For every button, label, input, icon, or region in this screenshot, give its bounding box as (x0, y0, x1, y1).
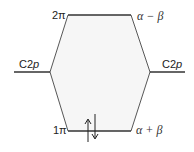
label-alpha-minus-beta: α − β (137, 9, 163, 23)
label-2pi: 2π (52, 9, 66, 21)
mo-diagram: 2π α − β C2p C2p 1π α + β (0, 0, 194, 152)
label-c2p-right: C2p (162, 58, 182, 70)
label-alpha-plus-beta: α + β (136, 123, 162, 137)
label-c2p-left: C2p (19, 58, 39, 70)
hexagon-fill (50, 15, 150, 131)
label-1pi: 1π (53, 124, 67, 136)
